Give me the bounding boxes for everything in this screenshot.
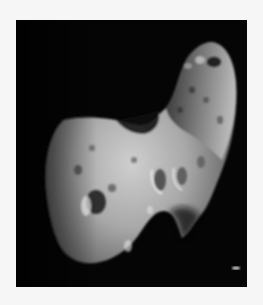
asteroid-illustration <box>16 20 247 287</box>
asteroid-photo <box>16 20 247 287</box>
bright-streak <box>232 267 240 270</box>
